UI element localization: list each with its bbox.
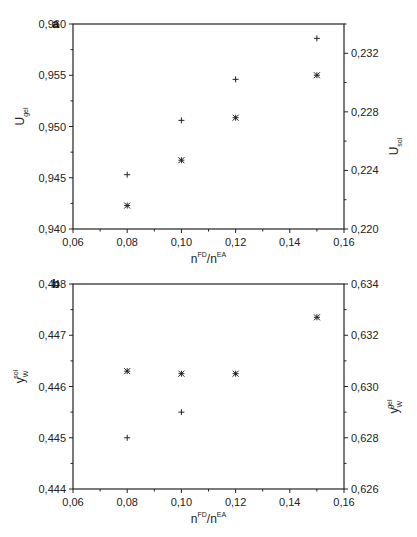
star-marker	[314, 72, 320, 78]
y-right-axis-title: yWgel	[386, 399, 403, 413]
plus-marker	[178, 117, 184, 123]
x-axis-title: nFD/nEA	[191, 511, 227, 526]
x-tick-label: 0,16	[333, 496, 354, 508]
x-tick-label: 0,12	[225, 236, 246, 248]
y-left-tick-label: 0,447	[38, 329, 66, 341]
x-tick-label: 0,10	[171, 236, 192, 248]
star-marker	[233, 115, 239, 121]
y-right-tick-label: 0,220	[351, 223, 379, 235]
y-right-tick-label: 0,626	[351, 483, 379, 495]
x-axis-title: nFD/nEA	[191, 251, 227, 266]
y-right-tick-label: 0,628	[351, 432, 379, 444]
x-tick-label: 0,12	[225, 496, 246, 508]
plus-marker	[178, 409, 184, 415]
x-tick-label: 0,10	[171, 496, 192, 508]
x-tick-label: 0,08	[116, 236, 137, 248]
y-right-tick-label: 0,228	[351, 106, 379, 118]
y-left-tick-label: 0,448	[38, 278, 66, 290]
y-left-tick-label: 0,950	[38, 121, 66, 133]
y-right-tick-label: 0,232	[351, 47, 379, 59]
y-left-tick-label: 0,444	[38, 483, 66, 495]
chart-panel-a: a0,060,080,100,120,140,160,9400,9450,950…	[13, 16, 403, 266]
plus-marker	[314, 35, 320, 41]
y-left-tick-label: 0,945	[38, 172, 66, 184]
y-left-tick-label: 0,960	[38, 18, 66, 30]
star-marker	[178, 157, 184, 163]
y-left-axis-title: Ugel	[13, 107, 30, 125]
y-right-tick-label: 0,630	[351, 381, 379, 393]
y-right-tick-label: 0,632	[351, 329, 379, 341]
plot-frame	[73, 24, 344, 229]
plot-frame	[73, 284, 344, 489]
y-left-tick-label: 0,446	[38, 381, 66, 393]
star-marker	[124, 203, 130, 209]
y-right-tick-label: 0,224	[351, 164, 379, 176]
plus-marker	[233, 76, 239, 82]
plus-marker	[124, 435, 130, 441]
y-left-tick-label: 0,940	[38, 223, 66, 235]
y-right-axis-title: Usol	[387, 137, 403, 155]
y-left-axis-title: yWsol	[12, 369, 29, 383]
star-marker	[178, 371, 184, 377]
figure: a0,060,080,100,120,140,160,9400,9450,950…	[0, 0, 417, 537]
y-right-tick-label: 0,634	[351, 278, 379, 290]
x-tick-label: 0,06	[62, 496, 83, 508]
y-left-tick-label: 0,445	[38, 432, 66, 444]
x-tick-label: 0,14	[279, 236, 300, 248]
x-tick-label: 0,14	[279, 496, 300, 508]
plus-marker	[124, 172, 130, 178]
x-tick-label: 0,16	[333, 236, 354, 248]
x-tick-label: 0,08	[116, 496, 137, 508]
y-left-tick-label: 0,955	[38, 69, 66, 81]
star-marker	[124, 368, 130, 374]
star-marker	[314, 314, 320, 320]
chart-panel-b: b0,060,080,100,120,140,160,4440,4450,446…	[12, 276, 403, 526]
star-marker	[233, 371, 239, 377]
x-tick-label: 0,06	[62, 236, 83, 248]
